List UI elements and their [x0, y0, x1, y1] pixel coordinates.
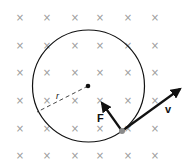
- field-into-page-mark: ×: [71, 40, 79, 51]
- field-into-page-mark: ×: [151, 123, 159, 134]
- velocity-label: v: [165, 103, 172, 115]
- field-into-page-mark: ×: [124, 150, 132, 161]
- field-into-page-mark: ×: [43, 67, 51, 78]
- field-into-page-mark: ×: [16, 67, 24, 78]
- field-into-page-mark: ×: [96, 12, 104, 23]
- field-into-page-mark: ×: [71, 95, 79, 106]
- field-into-page-mark: ×: [16, 95, 24, 106]
- field-into-page-mark: ×: [43, 12, 51, 23]
- field-into-page-mark: ×: [43, 95, 51, 106]
- field-into-page-mark: ×: [16, 12, 24, 23]
- field-into-page-mark: ×: [96, 123, 104, 134]
- field-into-page-mark: ×: [71, 123, 79, 134]
- field-into-page-mark: ×: [151, 67, 159, 78]
- field-into-page-mark: ×: [43, 150, 51, 161]
- center-dot: [86, 84, 91, 89]
- force-label: F: [97, 112, 104, 124]
- field-into-page-mark: ×: [151, 150, 159, 161]
- field-into-page-mark: ×: [124, 95, 132, 106]
- field-into-page-mark: ×: [96, 150, 104, 161]
- field-into-page-mark: ×: [96, 67, 104, 78]
- field-into-page-mark: ×: [124, 67, 132, 78]
- field-into-page-mark: ×: [71, 12, 79, 23]
- field-into-page-mark: ×: [16, 123, 24, 134]
- field-into-page-mark: ×: [151, 12, 159, 23]
- diagram: ×××××××××××××××××××××××××××××××××××× r F…: [0, 0, 191, 168]
- field-into-page-mark: ×: [71, 150, 79, 161]
- field-into-page-mark: ×: [71, 67, 79, 78]
- field-into-page-mark: ×: [124, 12, 132, 23]
- radius-label: r: [56, 91, 60, 101]
- field-into-page-mark: ×: [151, 40, 159, 51]
- diagram-canvas: ×××××××××××××××××××××××××××××××××××× r F…: [0, 0, 191, 168]
- field-into-page-mark: ×: [16, 40, 24, 51]
- particle: [119, 128, 125, 134]
- force-arrow: [102, 103, 122, 131]
- field-into-page-mark: ×: [16, 150, 24, 161]
- field-into-page-mark: ×: [96, 40, 104, 51]
